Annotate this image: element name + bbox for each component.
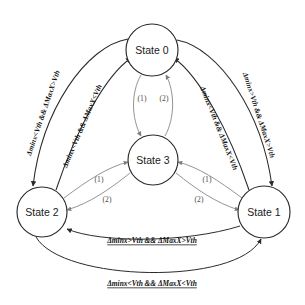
edge-label-state2-to-state0: Δminx<Vth && ΔMaxX<Vth <box>60 83 104 170</box>
state-transition-diagram: State 0 State 3 State 2 State 1 Δminx<Vt… <box>0 0 305 305</box>
edge-state0-to-state3 <box>134 75 142 136</box>
node-state0-label: State 0 <box>135 44 168 56</box>
edge-label-state0-to-state1: Δminx>Vth && ΔMaxX>Vth <box>241 70 278 159</box>
edge-state2-to-state0 <box>56 58 131 190</box>
edge-label-state1-to-state2: Δminx>Vth && ΔMaxX>Vth <box>106 236 197 245</box>
edge-label-state2-to-state1: Δminx<Vth && ΔMaxX<Vth <box>106 279 197 288</box>
node-state3-label: State 3 <box>136 154 169 166</box>
node-state1[interactable]: State 1 <box>238 186 290 238</box>
edge-state3-to-state0 <box>165 75 173 136</box>
edge-label-state3-to-state2: (2) <box>103 195 112 204</box>
node-state2[interactable]: State 2 <box>17 187 67 237</box>
edge-state1-to-state0 <box>174 58 249 190</box>
edge-label-state3-to-state0: (2) <box>160 94 169 103</box>
edge-label-state3-to-state1: (2) <box>195 195 204 204</box>
edge-label-state1-to-state3: (1) <box>203 175 212 184</box>
edge-label-state2-to-state3: (1) <box>95 175 104 184</box>
edge-label-state0-to-state2: Δminx<Vth && ΔMaxX>Vth <box>24 69 62 158</box>
node-state0[interactable]: State 0 <box>126 24 178 76</box>
node-state1-label: State 1 <box>247 206 280 218</box>
node-state2-label: State 2 <box>25 206 58 218</box>
edge-label-state0-to-state3: (1) <box>138 94 147 103</box>
node-state3[interactable]: State 3 <box>128 135 178 185</box>
edge-label-state1-to-state0: Δminx<Vth && ΔMaxX<Vth <box>198 84 240 171</box>
